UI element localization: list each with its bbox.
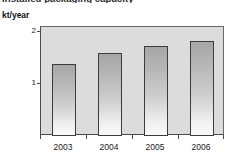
x-tick-label-2006: 2006: [178, 142, 224, 153]
x-tick-label-2004: 2004: [86, 142, 132, 153]
y-tick-text: 1: [16, 79, 36, 87]
bar-2006: [190, 41, 214, 136]
y-tick-text: 2: [16, 27, 36, 35]
bar-2005: [144, 46, 168, 136]
x-tick-mark-1: [86, 135, 87, 139]
x-tick-mark-0: [40, 135, 41, 139]
x-tick-mark-3: [178, 135, 179, 139]
chart-title: Installed packaging capacity: [2, 0, 233, 3]
x-tick-label-2003: 2003: [40, 142, 86, 153]
y-tick-label-2: 2: [16, 27, 36, 35]
y-tick-label-1: 1: [16, 79, 36, 87]
x-tick-mark-4: [223, 135, 224, 139]
chart-figure: Installed packaging capacity kt/year 12 …: [0, 0, 235, 165]
x-tick-label-2005: 2005: [132, 142, 178, 153]
y-axis-unit-label: kt/year: [2, 10, 29, 20]
plot-area: [40, 26, 224, 135]
bar-2004: [98, 53, 122, 136]
x-tick-mark-2: [132, 135, 133, 139]
bars-container: [41, 27, 223, 134]
bar-2003: [52, 64, 76, 136]
